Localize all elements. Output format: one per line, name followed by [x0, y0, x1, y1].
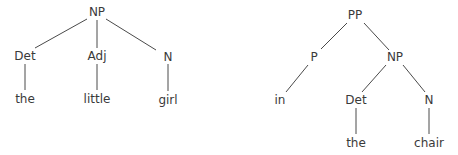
edge-np2-n2 [403, 65, 425, 92]
node-adj: Adj [88, 49, 107, 63]
edge-pp-p [321, 23, 347, 49]
node-det: Det [14, 49, 36, 63]
edge-np-n [106, 19, 156, 50]
node-the: the [15, 92, 35, 106]
node-in: in [275, 93, 286, 107]
syntax-tree-diagram: NPDetAdjNthelittlegirl PPPNPinDetNthecha… [0, 0, 458, 155]
node-little: little [84, 92, 111, 106]
node-det2: Det [345, 93, 367, 107]
edge-np2-det2 [362, 65, 386, 92]
node-chair: chair [414, 136, 444, 150]
edge-np-det [35, 19, 87, 48]
node-np: NP [89, 5, 105, 19]
node-n: N [164, 50, 173, 64]
node-pp: PP [348, 8, 362, 22]
np-tree: NPDetAdjNthelittlegirl [14, 5, 177, 107]
pp-tree: PPPNPinDetNthechair [275, 8, 444, 150]
node-girl: girl [158, 93, 177, 107]
node-p: P [310, 50, 317, 64]
node-np2: NP [387, 50, 403, 64]
edge-pp-np2 [364, 23, 389, 50]
node-the2: the [346, 136, 366, 150]
edge-p-in [286, 65, 308, 92]
node-n2: N [425, 93, 434, 107]
